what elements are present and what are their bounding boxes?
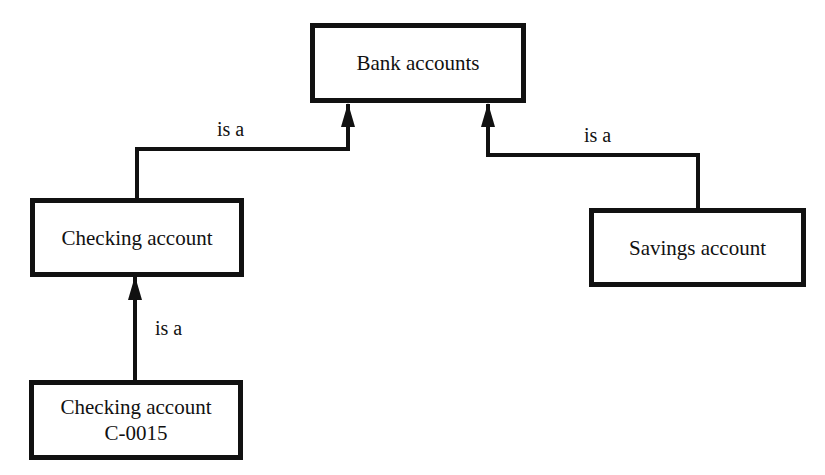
node-checking-account: Checking account <box>30 198 244 277</box>
node-label: Bank accounts <box>356 50 479 76</box>
node-label-line-1: Checking account <box>60 394 211 420</box>
edge-label-savings-to-bank: is a <box>584 124 611 146</box>
arrowhead-icon <box>128 276 142 300</box>
edge-label-instance-to-checking: is a <box>155 317 182 339</box>
edge-savings-to-bank <box>488 104 698 209</box>
node-savings-account: Savings account <box>589 208 806 287</box>
node-label-line-2: C-0015 <box>105 420 168 446</box>
arrowhead-icon <box>341 103 355 127</box>
node-label: Checking account <box>61 225 212 251</box>
node-checking-c0015: Checking account C-0015 <box>29 380 243 460</box>
edge-label-checking-to-bank: is a <box>217 118 244 140</box>
node-label: Savings account <box>629 235 766 261</box>
arrowhead-icon <box>481 103 495 127</box>
node-bank-accounts: Bank accounts <box>310 23 526 103</box>
